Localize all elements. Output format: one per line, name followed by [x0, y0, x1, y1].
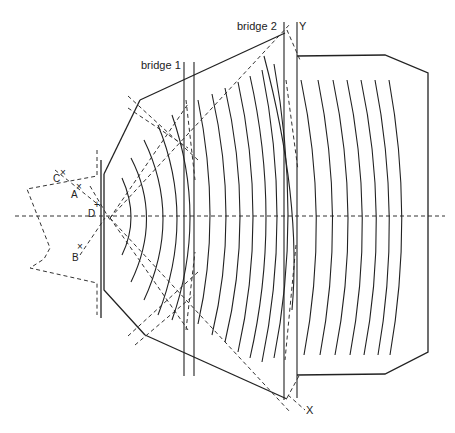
point-b-mark: ×: [77, 241, 83, 252]
label-y: Y: [299, 20, 307, 32]
ray-up-to-y: [110, 24, 290, 218]
ray: [128, 108, 188, 148]
label-d: D: [88, 208, 95, 219]
channel-edge-upper: [104, 100, 140, 174]
label-c: C: [53, 173, 60, 184]
ray: [128, 272, 198, 336]
label-bridge1: bridge 1: [141, 59, 181, 71]
wave-fronts-section1: [122, 115, 190, 320]
label-bridge2: bridge 2: [237, 20, 277, 32]
channel-diagram: × × + × C A D B bridge 1 bridge 2 Y X: [0, 0, 455, 433]
ray: [287, 374, 300, 398]
ray: [286, 80, 298, 170]
point-c-mark: ×: [60, 167, 66, 178]
label-b: B: [72, 252, 79, 263]
wave-fronts-section2: [198, 56, 294, 362]
wave-fronts-section3: [301, 80, 402, 355]
diagram-canvas: × × + × C A D B bridge 1 bridge 2 Y X: [0, 0, 455, 433]
label-a: A: [71, 189, 78, 200]
channel-edge-lower: [104, 207, 145, 335]
label-x: X: [306, 404, 314, 416]
